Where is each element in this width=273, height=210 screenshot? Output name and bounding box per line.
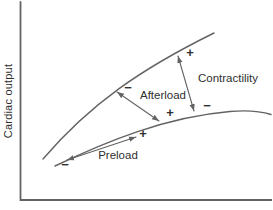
preload-plus-sign: + [139,126,147,141]
y-axis-label: Cardiac output [2,64,14,138]
diagram-canvas: Cardiac output Preload Afterload Contrac… [0,0,272,210]
preload-minus-sign: − [61,157,69,172]
afterload-plus-sign: + [166,105,174,120]
afterload-label: Afterload [140,89,186,101]
contractility-plus-sign: + [186,45,194,60]
afterload-minus-sign: − [124,80,132,95]
contractility-label: Contractility [198,72,258,84]
contractility-minus-sign: − [203,98,211,113]
cardiac-output-diagram: Cardiac output Preload Afterload Contrac… [0,0,272,210]
preload-label: Preload [98,149,138,161]
lower-curve [55,111,271,166]
axes [21,2,273,200]
contractility-arrow [178,56,194,111]
